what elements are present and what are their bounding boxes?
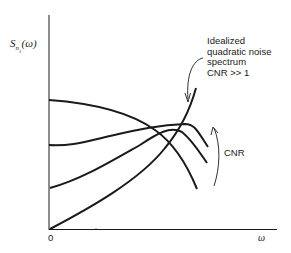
annotation-line-1: Idealized bbox=[207, 36, 271, 47]
cnr-arrow bbox=[214, 128, 219, 186]
annotation-line-3: spectrum bbox=[207, 57, 271, 68]
x-axis-label: ω bbox=[258, 233, 265, 244]
origin-label: 0 bbox=[48, 233, 53, 244]
annotation-line-4: CNR >> 1 bbox=[207, 68, 271, 79]
cnr-arrowhead-icon bbox=[211, 127, 218, 135]
y-axis-label: Sn1(ω) bbox=[10, 38, 37, 58]
curve-mid-cnr-2 bbox=[50, 130, 207, 188]
curve-idealized-quadratic bbox=[50, 88, 196, 229]
cnr-label: CNR bbox=[224, 148, 245, 159]
curve-mid-cnr-1 bbox=[49, 124, 208, 147]
annotation-text: Idealizedquadratic noisespectrumCNR >> 1 bbox=[207, 36, 271, 78]
